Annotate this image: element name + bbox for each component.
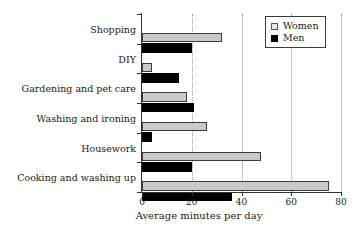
legend-item-men: Men — [271, 32, 319, 44]
category-label-housework: Housework — [81, 142, 136, 153]
bar-men — [142, 162, 192, 172]
bar-women — [142, 122, 207, 132]
legend-swatch-women-icon — [271, 23, 278, 30]
legend-label-women: Women — [283, 20, 319, 32]
y-tick — [137, 103, 141, 104]
x-tick — [142, 192, 143, 196]
legend-swatch-men-icon — [271, 35, 278, 42]
legend-item-women: Women — [271, 20, 319, 32]
category-label-washing-and-ironing: Washing and ironing — [37, 112, 136, 123]
x-tick — [192, 192, 193, 196]
gridline — [242, 14, 244, 192]
bar-women — [142, 33, 222, 43]
y-tick — [137, 73, 141, 74]
x-axis-title: Average minutes per day — [0, 210, 352, 221]
y-tick — [137, 192, 141, 193]
bar-women — [142, 152, 261, 162]
y-tick — [137, 14, 141, 15]
bar-women — [142, 63, 152, 73]
x-tick — [341, 192, 342, 196]
x-tick-label: 20 — [186, 197, 197, 207]
y-tick — [137, 162, 141, 163]
x-tick — [242, 192, 243, 196]
chart-legend: Women Men — [265, 16, 326, 48]
bar-men — [142, 103, 194, 113]
x-axis-title-text: Average minutes per day — [90, 210, 263, 221]
category-label-diy: DIY — [118, 53, 136, 64]
gridline — [341, 14, 343, 192]
bar-men — [142, 73, 179, 83]
category-label-shopping: Shopping — [90, 23, 136, 34]
bar-women — [142, 181, 329, 191]
bar-men — [142, 43, 192, 53]
x-tick-label: 40 — [236, 197, 247, 207]
category-label-gardening-and-pet-care: Gardening and pet care — [22, 83, 136, 94]
x-tick — [291, 192, 292, 196]
y-tick — [137, 133, 141, 134]
x-tick-label: 0 — [139, 197, 145, 207]
y-tick — [137, 44, 141, 45]
bar-men — [142, 132, 152, 142]
category-label-cooking-and-washing-up: Cooking and washing up — [17, 172, 136, 183]
x-tick-label: 60 — [286, 197, 297, 207]
y-axis-line — [141, 13, 142, 193]
bar-women — [142, 92, 187, 102]
legend-label-men: Men — [283, 32, 304, 44]
bar-chart: 020406080 Average minutes per day Women … — [0, 0, 352, 234]
x-tick-label: 80 — [335, 197, 346, 207]
